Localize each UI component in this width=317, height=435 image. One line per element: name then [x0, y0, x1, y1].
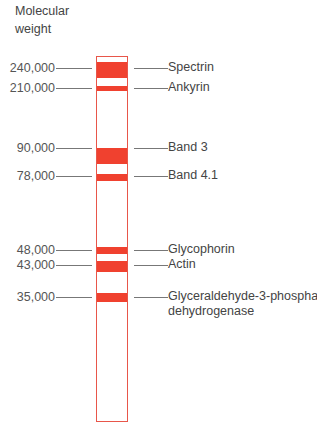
- gel-band-ankyrin: [97, 86, 127, 91]
- protein-label: Actin: [168, 257, 196, 272]
- leader-line-left: [56, 68, 92, 69]
- protein-name: Band 4.1: [168, 168, 218, 183]
- leader-line-right: [134, 265, 168, 266]
- protein-name: Glycophorin: [168, 242, 235, 257]
- gel-band-band-4-1: [97, 174, 127, 181]
- protein-label: Spectrin: [168, 60, 214, 75]
- molecular-weight-label: 210,000: [10, 81, 55, 95]
- gel-band-spectrin: [97, 62, 127, 78]
- leader-line-right: [134, 88, 168, 89]
- gel-band-actin: [97, 261, 127, 272]
- leader-line-left: [56, 250, 92, 251]
- axis-title-line1: Molecular: [15, 2, 95, 20]
- leader-line-right: [134, 68, 168, 69]
- protein-label: Glycophorin: [168, 242, 235, 257]
- protein-name: Band 3: [168, 140, 208, 155]
- leader-line-left: [56, 176, 92, 177]
- molecular-weight-label: 43,000: [17, 258, 55, 272]
- leader-line-right: [134, 250, 168, 251]
- molecular-weight-label: 35,000: [17, 290, 55, 304]
- leader-line-right: [134, 176, 168, 177]
- gel-band-band-3: [97, 148, 127, 164]
- leader-line-right: [134, 297, 168, 298]
- axis-title-line2: weight: [15, 20, 95, 38]
- molecular-weight-label: 78,000: [17, 169, 55, 183]
- protein-label: Ankyrin: [168, 80, 210, 95]
- leader-line-left: [56, 297, 92, 298]
- molecular-weight-label: 90,000: [17, 141, 55, 155]
- protein-name: Spectrin: [168, 60, 214, 75]
- protein-label: Glyceraldehyde-3-phosphatedehydrogenase: [168, 289, 317, 319]
- protein-label: Band 4.1: [168, 168, 218, 183]
- gel-band-glycophorin: [97, 247, 127, 254]
- gel-lane: [96, 56, 128, 422]
- axis-title-molecular-weight: Molecular weight: [15, 2, 95, 38]
- gel-band-glyceraldehyde-3-phosphate: [97, 293, 127, 302]
- leader-line-left: [56, 148, 92, 149]
- protein-name: Actin: [168, 257, 196, 272]
- leader-line-left: [56, 265, 92, 266]
- protein-name: Ankyrin: [168, 80, 210, 95]
- molecular-weight-label: 48,000: [17, 243, 55, 257]
- molecular-weight-label: 240,000: [10, 61, 55, 75]
- protein-name-line2: dehydrogenase: [168, 304, 317, 319]
- protein-name: Glyceraldehyde-3-phosphate: [168, 289, 317, 304]
- leader-line-left: [56, 88, 92, 89]
- leader-line-right: [134, 148, 168, 149]
- protein-label: Band 3: [168, 140, 208, 155]
